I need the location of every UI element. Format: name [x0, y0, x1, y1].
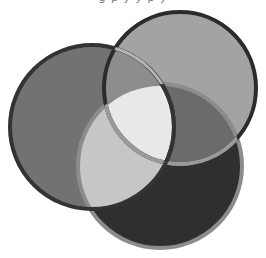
venn-diagram: [0, 0, 266, 258]
